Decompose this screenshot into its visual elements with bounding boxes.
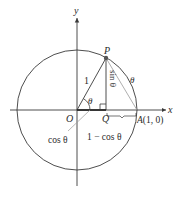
unit-circle-diagram: y x P O Q A(1, 0) 1 θ θ sin θ cos θ 1 − …: [0, 0, 182, 199]
point-p-label: P: [103, 45, 110, 56]
angle-label: θ: [88, 96, 93, 106]
point-q-label: Q: [102, 113, 110, 124]
origin-label: O: [66, 113, 73, 124]
sin-theta-label: sin θ: [108, 70, 118, 87]
one-minus-cos-brace: [107, 113, 136, 118]
x-axis-label: x: [167, 104, 173, 115]
cos-theta-label: cos θ: [48, 135, 68, 145]
one-minus-cos-label: 1 − cos θ: [87, 132, 122, 142]
y-axis-label: y: [73, 5, 79, 16]
arc-theta-label: θ: [130, 75, 135, 85]
radius-label: 1: [84, 75, 89, 86]
point-a-label: A(1, 0): [136, 115, 163, 126]
point-p: [104, 56, 108, 60]
